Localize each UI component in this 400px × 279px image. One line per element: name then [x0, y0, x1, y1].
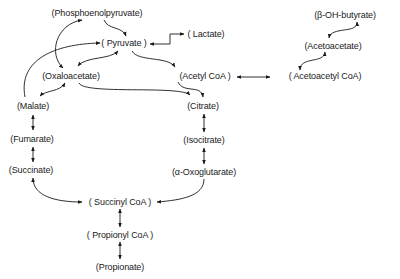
metabolic-pathway-diagram: (Phosphoenolpyruvate) ( Pyruvate ) ( Lac… — [0, 0, 400, 279]
arrow-pyruvate-oxaloacetate — [78, 51, 118, 66]
node-lactate: ( Lactate) — [187, 29, 224, 40]
node-citrate: (Citrate) — [187, 101, 219, 112]
node-acetoacetate: (Acetoacetate) — [304, 41, 361, 52]
arrow-acetoacetate-bohbutyrate — [329, 22, 357, 38]
arrow-pyruvate-lactate — [150, 34, 184, 44]
node-pyruvate: ( Pyruvate ) — [101, 38, 146, 49]
node-phosphoenolpyruvate: (Phosphoenolpyruvate) — [52, 8, 143, 19]
node-acetoacetyl-coa: ( Acetoacetyl CoA) — [289, 71, 362, 82]
arrow-oxaloacetate-malate — [40, 83, 65, 96]
node-succinate: (Succinate) — [9, 165, 53, 176]
arrow-acetoacetylcoa-acetoacetate — [300, 52, 325, 70]
node-fumarate: (Fumarate) — [10, 134, 54, 145]
arrow-pep-pyruvate — [104, 20, 126, 36]
arrow-pep-oxaloacetate — [55, 20, 82, 68]
node-propionyl-coa: ( Propionyl CoA ) — [87, 230, 153, 241]
arrow-oxaloacetate-citrate — [79, 83, 190, 95]
arrow-succinate-succinylcoa — [33, 178, 82, 202]
node-oxaloacetate: (Oxaloacetate) — [42, 71, 100, 82]
arrow-acetylcoa-citrate — [178, 82, 203, 97]
arrow-pyruvate-acetylcoa — [132, 51, 175, 67]
node-alpha-oxoglutarate: (α-Oxoglutarate) — [172, 167, 236, 178]
node-succinyl-coa: ( Succinyl CoA ) — [89, 197, 151, 208]
node-acetyl-coa: (Acetyl CoA ) — [179, 71, 230, 82]
node-isocitrate: (Isocitrate) — [183, 135, 224, 146]
arrow-oxoglutarate-succinylcoa — [157, 179, 204, 202]
node-propionate: (Propionate) — [96, 262, 144, 273]
node-malate: (Malate) — [17, 101, 49, 112]
arrow-malate-pyruvate — [24, 43, 100, 97]
node-beta-oh-butyrate: (β-OH-butyrate) — [314, 10, 376, 21]
